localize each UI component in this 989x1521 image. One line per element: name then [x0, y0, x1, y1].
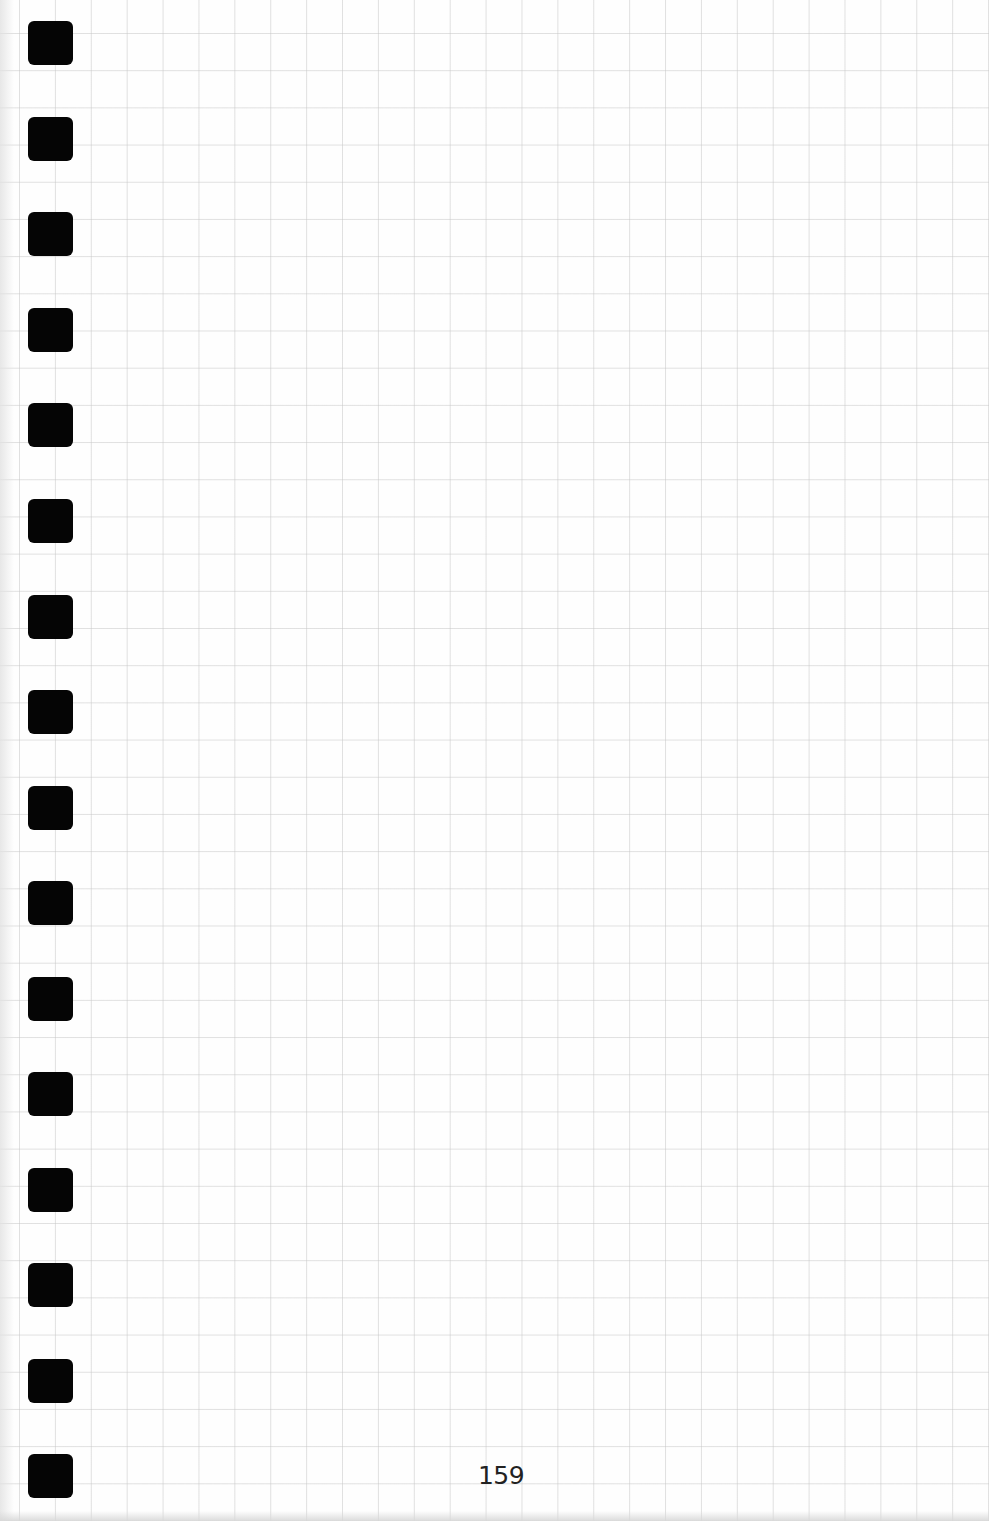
binder-tab-marker [28, 212, 73, 256]
binder-tab-marker [28, 881, 73, 925]
binder-tab-marker [28, 1072, 73, 1116]
grid-paper-page [0, 0, 989, 1521]
binder-tab-marker [28, 977, 73, 1021]
binder-tab-marker [28, 1168, 73, 1212]
page-number: 159 [0, 1461, 989, 1490]
binder-tab-marker [28, 1263, 73, 1307]
page-bottom-shadow [0, 1511, 989, 1521]
binder-tab-marker [28, 786, 73, 830]
binder-tab-marker [28, 21, 73, 65]
binder-tab-marker [28, 403, 73, 447]
binder-tab-marker [28, 499, 73, 543]
binder-tab-marker [28, 690, 73, 734]
binder-tab-marker [28, 1359, 73, 1403]
page-left-shadow [0, 0, 14, 1521]
binder-tab-marker [28, 308, 73, 352]
binder-tab-marker [28, 117, 73, 161]
binder-tab-marker [28, 595, 73, 639]
